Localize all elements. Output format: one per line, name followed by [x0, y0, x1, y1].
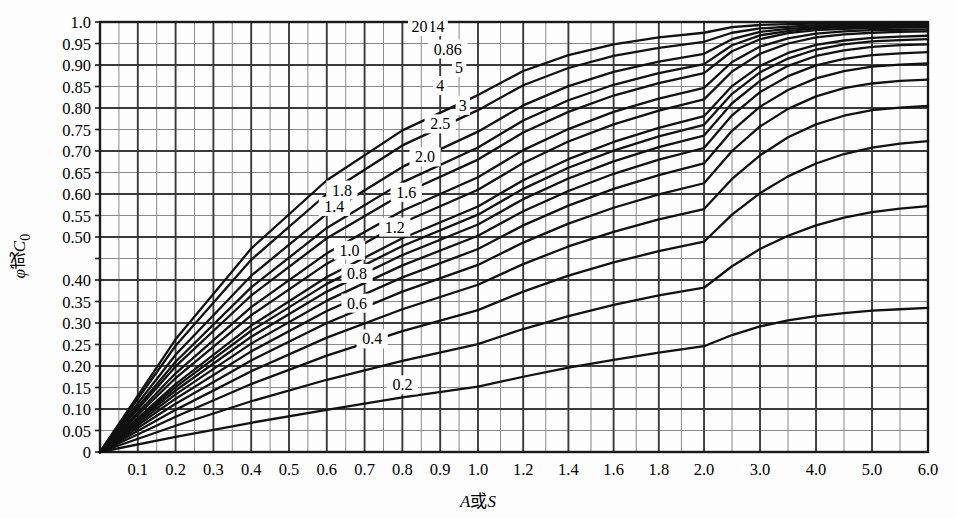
- y-tick-label: 0.50: [62, 228, 91, 247]
- y-axis-conjunction: 或: [9, 248, 26, 273]
- x-tick-label: 0.9: [430, 460, 451, 479]
- curve-label-1.6: 1.6: [396, 184, 416, 201]
- y-tick-label: 0.70: [62, 142, 91, 161]
- y-tick-label: 0.20: [62, 357, 91, 376]
- y-axis-title: φ或C0: [6, 196, 32, 316]
- y-tick-label: 0: [83, 443, 91, 462]
- curve-1.2: [100, 63, 928, 452]
- curve-2.5: [100, 31, 928, 452]
- curve-label-20: 20: [411, 18, 427, 35]
- chart-root: 1.00.950.900.850.800.750.700.650.600.550…: [0, 0, 956, 518]
- x-tick-label: 0.7: [354, 460, 375, 479]
- curve-1.4: [100, 52, 928, 452]
- y-tick-label: 0.85: [62, 78, 91, 97]
- y-axis-tick-labels: 1.00.950.900.850.800.750.700.650.600.550…: [62, 13, 91, 462]
- y-tick-label: 0.30: [62, 314, 91, 333]
- curve-label-2.0: 2.0: [415, 148, 435, 165]
- curve-label-2.5: 2.5: [430, 115, 450, 132]
- y-tick-label: 0.95: [62, 35, 91, 54]
- x-tick-label: 1.8: [649, 460, 670, 479]
- curve-label-3: 3: [459, 97, 467, 114]
- y-tick-label: 0.25: [62, 336, 91, 355]
- y-tick-label: 0.75: [62, 121, 91, 140]
- x-axis-symbol-a: A: [460, 492, 470, 511]
- y-axis-subscript: 0: [16, 234, 32, 241]
- x-tick-label: 4.0: [806, 460, 827, 479]
- chart-canvas: 1.00.950.900.850.800.750.700.650.600.550…: [0, 0, 956, 518]
- curve-3: [100, 29, 928, 452]
- curve-0.6: [100, 141, 928, 452]
- y-tick-label: 0.05: [62, 422, 91, 441]
- curve-labels-group: 0.20.40.60.81.01.21.41.61.82.02.53450.86…: [319, 17, 470, 394]
- y-tick-label: 1.0: [70, 13, 91, 32]
- x-axis-title: A或S: [0, 487, 956, 512]
- x-axis-symbol-s: S: [487, 492, 496, 511]
- x-tick-label: 1.6: [603, 460, 624, 479]
- x-tick-label: 0.8: [392, 460, 413, 479]
- y-tick-label: 0.90: [62, 56, 91, 75]
- x-axis-tick-labels: 0.10.20.30.40.50.60.70.80.91.01.21.41.61…: [127, 460, 938, 479]
- curve-label-0.8: 0.8: [347, 265, 367, 282]
- y-tick-label: 0.35: [62, 293, 91, 312]
- y-tick-label: 0.15: [62, 379, 91, 398]
- curve-label-0.86: 0.86: [434, 41, 462, 58]
- x-tick-label: 3.0: [750, 460, 771, 479]
- x-tick-label: 0.1: [127, 460, 148, 479]
- curve-label-4: 4: [436, 77, 444, 94]
- y-tick-label: 0.65: [62, 164, 91, 183]
- chart-svg: 1.00.950.900.850.800.750.700.650.600.550…: [0, 0, 956, 518]
- curve-label-0.2: 0.2: [392, 376, 412, 393]
- curve-label-5: 5: [455, 59, 463, 76]
- curve-label-1.8: 1.8: [332, 182, 352, 199]
- y-tick-label: 0.10: [62, 400, 91, 419]
- x-tick-label: 1.0: [468, 460, 489, 479]
- x-tick-label: 2.0: [694, 460, 715, 479]
- curve-label-0.6: 0.6: [347, 295, 367, 312]
- y-tick-label: 0.40: [62, 271, 91, 290]
- curve-0.8: [100, 106, 928, 452]
- curve-label-1.0: 1.0: [339, 242, 359, 259]
- x-tick-label: 0.4: [241, 460, 262, 479]
- y-tick-label: 0.55: [62, 207, 91, 226]
- x-tick-label: 1.2: [513, 460, 534, 479]
- y-tick-label: 0.80: [62, 99, 91, 118]
- curve-0.4: [100, 206, 928, 452]
- curve-label-0.4: 0.4: [362, 330, 382, 347]
- x-tick-label: 0.2: [165, 460, 186, 479]
- curve-label-1.4: 1.4: [324, 198, 344, 215]
- curve-label-1.2: 1.2: [385, 219, 405, 236]
- x-tick-label: 5.0: [862, 460, 883, 479]
- x-tick-label: 0.6: [316, 460, 337, 479]
- x-tick-label: 1.4: [558, 460, 579, 479]
- x-tick-label: 0.3: [203, 460, 224, 479]
- y-tick-label: 0.60: [62, 185, 91, 204]
- x-tick-label: 6.0: [918, 460, 939, 479]
- curve-label-14: 14: [428, 18, 444, 35]
- x-axis-conjunction: 或: [470, 492, 487, 511]
- curve-2.0: [100, 36, 928, 452]
- x-tick-label: 0.5: [279, 460, 300, 479]
- y-axis-title-text: φ或C0: [5, 234, 33, 279]
